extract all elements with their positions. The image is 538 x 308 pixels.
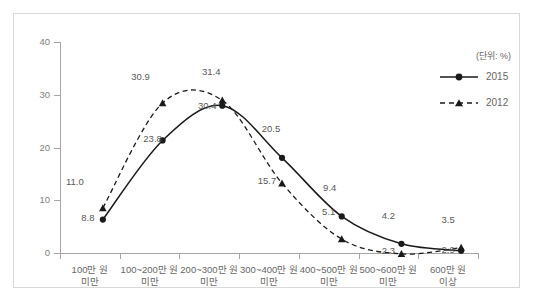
legend-item-2015[interactable]: 2015: [438, 70, 524, 96]
data-point-2015-4[interactable]: [339, 213, 345, 219]
legend-label-2012: 2012: [486, 97, 508, 109]
value-label-2015-1: 23.8: [143, 134, 162, 144]
x-axis-category-label: 200~300만 원미만: [179, 264, 239, 288]
data-point-2012-4[interactable]: [338, 235, 346, 242]
chart-legend: 2015 2012: [438, 70, 524, 122]
value-label-2012-1: 30.9: [131, 72, 150, 82]
value-label-2012-4: 5.1: [322, 207, 335, 217]
x-axis-category-label: 600만 원이상: [418, 264, 478, 288]
data-point-2012-6[interactable]: [457, 244, 465, 251]
x-axis-category-label: 100만 원미만: [60, 264, 120, 288]
value-label-2012-5: 2.3: [382, 246, 395, 256]
value-label-2015-3: 20.5: [262, 124, 281, 134]
value-label-2015-0: 8.8: [81, 213, 94, 223]
value-label-2012-6: 3.5: [442, 215, 455, 225]
value-label-2015-5: 4.2: [382, 211, 395, 221]
unit-note: (단위: %): [476, 49, 511, 62]
x-axis-category-label: 400~500만 원미만: [299, 264, 359, 288]
series-line-2012: [103, 90, 461, 254]
data-point-2012-2[interactable]: [218, 97, 226, 104]
data-point-2015-0[interactable]: [100, 216, 106, 222]
x-axis-category-label: 100~200만 원미만: [120, 264, 180, 288]
chart-frame: 010203040 8.823.830.420.59.44.22.911.030…: [13, 13, 520, 288]
legend-item-2012[interactable]: 2012: [438, 96, 524, 122]
value-label-2012-3: 15.7: [258, 176, 277, 186]
legend-key-solid-circle-icon: [438, 70, 480, 84]
data-point-2012-0[interactable]: [99, 204, 107, 211]
value-label-2012-2: 31.4: [202, 67, 221, 77]
value-label-2015-2: 30.4: [198, 101, 217, 111]
series-line-2015: [103, 105, 461, 250]
x-axis-category-label: 300~400만 원미만: [239, 264, 299, 288]
legend-key-dashed-triangle-icon: [438, 96, 480, 110]
data-point-2015-5[interactable]: [398, 241, 404, 247]
data-point-2015-3[interactable]: [279, 155, 285, 161]
legend-label-2015: 2015: [486, 71, 508, 83]
value-label-2015-4: 9.4: [323, 183, 336, 193]
data-point-2012-1[interactable]: [159, 99, 167, 106]
value-label-2012-0: 11.0: [66, 177, 84, 187]
value-label-2015-6: 2.9: [442, 245, 455, 255]
x-axis-category-label: 500~600만 원미만: [359, 264, 419, 288]
